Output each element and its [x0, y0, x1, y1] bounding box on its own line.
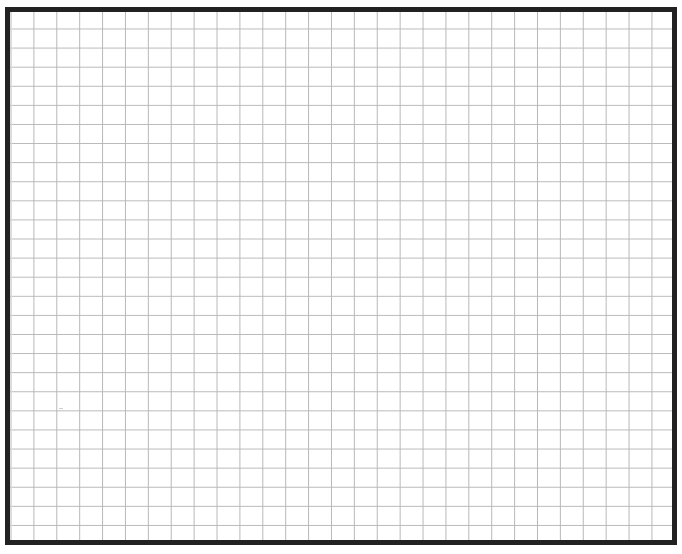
- grid-sheet-frame: [5, 7, 677, 545]
- paper-speck: [59, 408, 63, 409]
- grid-lines: [10, 12, 672, 540]
- grid-inner-edge-line: [11, 12, 12, 540]
